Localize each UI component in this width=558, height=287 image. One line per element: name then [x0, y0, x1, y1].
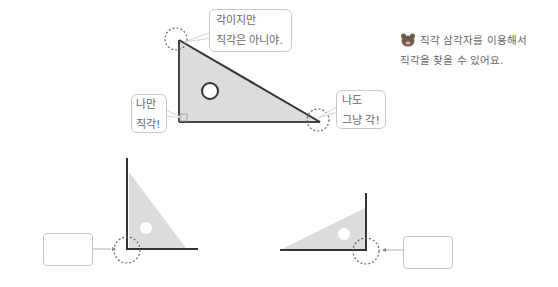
note-line1: 직각 삼각자를 이용해서: [420, 34, 527, 46]
set-square-top: [179, 40, 320, 122]
speech-bubble-left: 나만 직각!: [131, 94, 167, 133]
dashed-circle-top-vertex: [165, 28, 187, 50]
mascot-icon: [400, 33, 416, 47]
answer-box-left[interactable]: [43, 233, 93, 266]
hint-note: 직각 삼각자를 이용해서 직각을 찾을 수 있어요.: [400, 30, 527, 70]
bubble-right-line1: 나도: [342, 91, 380, 111]
bubble-top-line1: 각이지만: [216, 11, 285, 31]
bubble-left-line2: 직각!: [136, 115, 162, 135]
answer-box-right[interactable]: [403, 236, 453, 269]
bubble-left-line1: 나만: [136, 95, 162, 115]
speech-bubble-top: 각이지만 직각은 아니야.: [209, 9, 292, 52]
speech-bubble-right: 나도 그냥 각!: [336, 90, 386, 129]
note-line2: 직각을 찾을 수 있어요.: [400, 50, 527, 70]
set-square-bottom-right: [280, 193, 367, 251]
bubble-top-line2: 직각은 아니야.: [216, 31, 285, 51]
set-square-bottom-left: [126, 158, 198, 250]
bubble-right-line2: 그냥 각!: [342, 111, 380, 131]
